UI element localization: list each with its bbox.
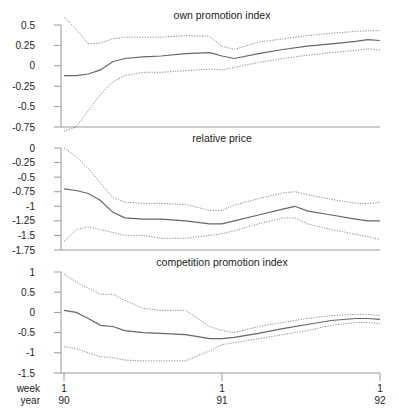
series-upper-bound — [64, 148, 380, 210]
x-tick-week-1-92: 1 — [377, 383, 383, 394]
y-tick-label: 0 — [29, 143, 35, 154]
y-tick-label: -1.25 — [12, 215, 35, 226]
x-axis: week year 1 90 1 91 1 92 — [16, 373, 386, 406]
y-tick-label: 0.25 — [16, 40, 36, 51]
x-row-label-week: week — [16, 383, 41, 394]
series-lower-bound — [64, 323, 380, 361]
y-tick-label: -0.25 — [12, 81, 35, 92]
y-tick-label: -1.75 — [12, 245, 35, 256]
y-tick-label: -1 — [26, 347, 35, 358]
y-tick-label: -1.5 — [18, 368, 36, 379]
series-estimate — [64, 189, 380, 224]
y-tick-label: 1 — [29, 267, 35, 278]
panel-title: own promotion index — [174, 9, 272, 21]
y-tick-label: -0.25 — [12, 157, 35, 168]
panel-relative-price: relative price0-0.25-0.5-0.75-1-1.25-1.5… — [12, 132, 380, 256]
x-tick-year-90: 90 — [58, 395, 70, 406]
chart-figure: own promotion index0.50.250-0.25-0.5-0.7… — [0, 0, 399, 415]
series-lower-bound — [64, 49, 380, 131]
y-tick-label: 0 — [29, 307, 35, 318]
y-tick-label: -0.5 — [18, 101, 36, 112]
x-tick-week-1-91: 1 — [219, 383, 225, 394]
panel-title: competition promotion index — [156, 256, 288, 268]
series-estimate — [64, 310, 380, 338]
panel-title: relative price — [192, 132, 252, 144]
x-tick-year-91: 91 — [216, 395, 228, 406]
y-tick-label: -0.5 — [18, 327, 36, 338]
y-tick-label: 0.5 — [21, 20, 35, 31]
panel-competition-promotion-index: competition promotion index10.50-0.5-1-1… — [18, 256, 380, 379]
series-upper-bound — [64, 17, 380, 50]
x-tick-year-92: 92 — [374, 395, 386, 406]
x-tick-week-1: 1 — [61, 383, 67, 394]
y-tick-label: 0.5 — [21, 287, 35, 298]
y-tick-label: -0.5 — [18, 172, 36, 183]
series-lower-bound — [64, 218, 380, 241]
series-upper-bound — [64, 274, 380, 333]
x-row-label-year: year — [21, 395, 41, 406]
y-tick-label: 0 — [29, 60, 35, 71]
y-tick-label: -1 — [26, 201, 35, 212]
y-tick-label: -0.75 — [12, 186, 35, 197]
y-tick-label: -1.5 — [18, 230, 36, 241]
y-tick-label: -0.75 — [12, 122, 35, 133]
panel-own-promotion-index: own promotion index0.50.250-0.25-0.5-0.7… — [12, 9, 380, 133]
